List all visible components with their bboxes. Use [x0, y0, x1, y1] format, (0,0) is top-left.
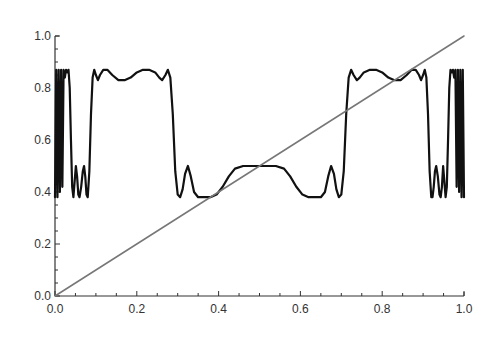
x-tick-label: 0.8	[374, 302, 391, 316]
x-tick-label: 0.6	[292, 302, 309, 316]
y-tick-label: 0.6	[34, 133, 51, 147]
x-tick-label: 0.4	[210, 302, 227, 316]
plot-series	[55, 36, 464, 296]
y-tick-label: 1.0	[34, 29, 51, 43]
x-axis-ticks: 0.00.20.40.60.81.0	[47, 291, 473, 316]
y-tick-label: 0.8	[34, 81, 51, 95]
oscillating-curve	[55, 70, 464, 197]
identity-line	[55, 36, 464, 296]
y-tick-label: 0.2	[34, 237, 51, 251]
chart: 0.00.20.40.60.81.0 0.00.20.40.60.81.0	[0, 0, 504, 342]
y-tick-label: 0.0	[34, 289, 51, 303]
x-tick-label: 1.0	[456, 302, 473, 316]
x-tick-label: 0.2	[128, 302, 145, 316]
x-tick-label: 0.0	[47, 302, 64, 316]
y-tick-label: 0.4	[34, 185, 51, 199]
